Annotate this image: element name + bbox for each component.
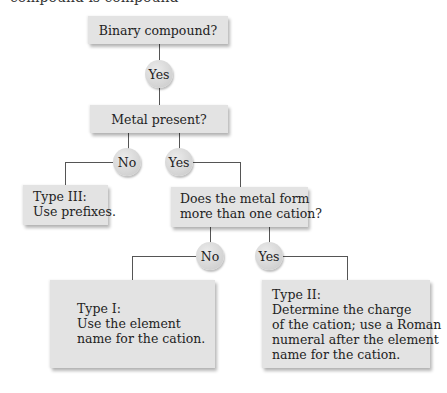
question-metal-present-label: Metal present?	[111, 112, 207, 127]
connector-yes-to-metal	[159, 88, 160, 105]
type-ii-title: Type II:	[272, 287, 430, 302]
question-binary-compound-label: Binary compound?	[99, 23, 217, 38]
type-ii-line-3: of the cation; use a Roman	[272, 317, 430, 332]
result-type-iii: Type III: Use prefixes.	[23, 185, 108, 225]
connector-no-to-type3-h	[65, 162, 113, 163]
answer-cation-yes: Yes	[255, 242, 283, 270]
answer-metal-yes-label: Yes	[169, 155, 190, 170]
type-i-line-2: Use the element	[77, 316, 215, 331]
answer-metal-no: No	[113, 148, 141, 176]
answer-binary-yes: Yes	[145, 60, 173, 88]
result-type-ii: Type II: Determine the charge of the cat…	[262, 280, 430, 368]
question-cation-line-2: more than one cation?	[180, 206, 308, 221]
connector-metal-to-no	[128, 133, 129, 149]
question-cation-line-1: Does the metal form	[180, 191, 308, 206]
connector-yes-to-cation-v	[240, 162, 241, 187]
connector-no-to-type3-v	[65, 162, 66, 185]
connector-binary-to-yes	[159, 44, 160, 60]
connector-cation-to-yes	[269, 227, 270, 243]
connector-cation-to-no	[210, 227, 211, 243]
connector-metal-to-yes	[179, 133, 180, 149]
connector-yes-to-cation-h	[193, 162, 240, 163]
answer-cation-no-label: No	[201, 249, 219, 264]
answer-metal-yes: Yes	[165, 148, 193, 176]
answer-cation-yes-label: Yes	[259, 249, 280, 264]
connector-yes-to-type2-h	[283, 256, 347, 257]
connector-yes-to-type2-v	[347, 256, 348, 280]
type-ii-line-4: numeral after the element	[272, 332, 430, 347]
question-more-than-one-cation: Does the metal form more than one cation…	[171, 187, 308, 227]
question-binary-compound: Binary compound?	[88, 16, 228, 44]
connector-no-to-type1-h	[132, 256, 196, 257]
answer-metal-no-label: No	[118, 155, 136, 170]
type-ii-line-2: Determine the charge	[272, 302, 430, 317]
type-iii-rule: Use prefixes.	[33, 204, 108, 219]
answer-cation-no: No	[196, 242, 224, 270]
answer-binary-yes-label: Yes	[149, 67, 170, 82]
cropped-caption-text: compound is compound	[10, 0, 178, 5]
connector-no-to-type1-v	[132, 256, 133, 280]
type-ii-line-5: name for the cation.	[272, 347, 430, 362]
type-i-line-3: name for the cation.	[77, 331, 215, 346]
result-type-i: Type I: Use the element name for the cat…	[50, 280, 215, 368]
type-iii-title: Type III:	[33, 189, 108, 204]
type-i-title: Type I:	[77, 301, 215, 316]
question-metal-present: Metal present?	[90, 105, 228, 133]
